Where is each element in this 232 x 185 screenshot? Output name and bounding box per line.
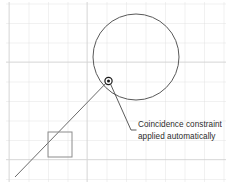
coincidence-constraint-marker[interactable] [105, 77, 112, 84]
callout-text-line-1: Coincidence constraint [138, 119, 222, 131]
sketch-viewport[interactable]: Coincidence constraint applied automatic… [0, 0, 232, 185]
sketch-canvas[interactable] [0, 0, 232, 185]
callout-text-line-2: applied automatically [138, 131, 216, 143]
sketch-grid [6, 2, 226, 182]
